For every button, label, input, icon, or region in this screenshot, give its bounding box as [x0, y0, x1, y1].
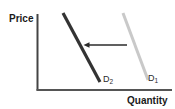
curve-label-d1-subscript: 1: [155, 77, 159, 84]
demand-curve-d1: [123, 13, 148, 80]
curve-label-d1-base: D: [148, 73, 155, 83]
curve-label-d2-subscript: 2: [110, 78, 114, 85]
demand-curve-d2: [63, 13, 100, 82]
curve-label-d1: D1: [148, 73, 158, 84]
curve-label-d2: D2: [103, 74, 113, 85]
shift-arrow: [84, 42, 128, 47]
curve-label-d2-base: D: [103, 74, 110, 84]
y-axis-title: Price: [9, 13, 33, 24]
x-axis-title: Quantity: [127, 95, 168, 106]
demand-shift-chart: Price Quantity D2 D1: [0, 0, 175, 109]
